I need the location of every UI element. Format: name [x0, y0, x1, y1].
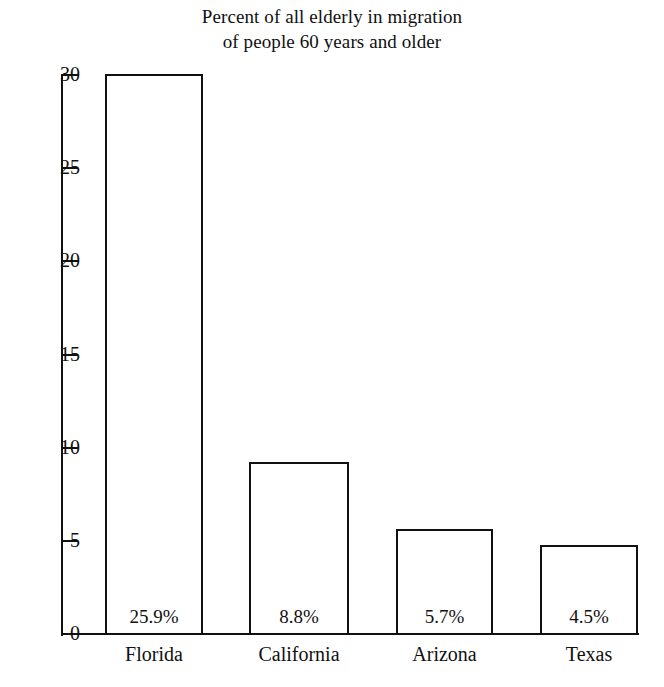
bar-value-texas: 4.5% — [542, 607, 636, 627]
y-tick-label-10: 10 — [34, 437, 80, 457]
y-tick-label-5: 5 — [34, 530, 80, 550]
plot-area: 30 25 20 15 10 5 0 25.9% 8.8% — [0, 0, 664, 687]
bar-florida[interactable]: 25.9% — [105, 74, 203, 635]
bar-texas[interactable]: 4.5% — [540, 545, 638, 635]
x-label-florida: Florida — [85, 642, 223, 666]
bar-arizona[interactable]: 5.7% — [396, 529, 493, 635]
chart-figure: Percent of all elderly in migration of p… — [0, 0, 664, 687]
bar-california[interactable]: 8.8% — [249, 462, 349, 635]
y-tick-label-20: 20 — [34, 250, 80, 270]
x-label-texas: Texas — [519, 642, 659, 666]
bar-value-california: 8.8% — [251, 607, 347, 627]
y-tick-label-0: 0 — [34, 623, 80, 643]
y-tick-label-15: 15 — [34, 344, 80, 364]
x-label-california: California — [229, 642, 369, 666]
x-label-arizona: Arizona — [375, 642, 514, 666]
bar-value-arizona: 5.7% — [398, 607, 491, 627]
bar-value-florida: 25.9% — [107, 607, 201, 627]
y-tick-label-25: 25 — [34, 157, 80, 177]
y-tick-label-30: 30 — [34, 64, 80, 84]
